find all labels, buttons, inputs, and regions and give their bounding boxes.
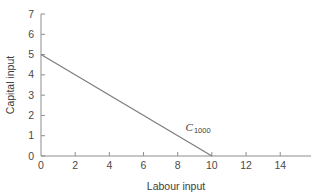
x-tick-label: 8 — [175, 159, 181, 171]
curve-label-subscript: 1000 — [194, 126, 211, 135]
x-tick-label: 2 — [72, 159, 78, 171]
x-tick-label: 14 — [274, 159, 286, 171]
x-axis-title: Labour input — [147, 180, 205, 192]
y-tick-label: 7 — [28, 8, 34, 20]
y-axis-ticks — [41, 14, 45, 156]
series-line — [41, 55, 212, 156]
x-tick-label: 10 — [206, 159, 218, 171]
curve-label-main: C — [185, 121, 193, 133]
y-tick-label: 4 — [28, 68, 34, 80]
x-axis-tick-labels: 02468101214 — [38, 159, 286, 171]
y-axis-title: Capital input — [4, 56, 16, 114]
chart-plot-area: 01234567 02468101214 C 1000 Labour input… — [0, 0, 314, 196]
x-tick-label: 0 — [38, 159, 44, 171]
x-tick-label: 12 — [240, 159, 252, 171]
x-tick-label: 6 — [141, 159, 147, 171]
isocost-chart: 01234567 02468101214 C 1000 Labour input… — [0, 0, 314, 196]
x-tick-label: 4 — [106, 159, 112, 171]
data-series-group — [41, 55, 212, 156]
curve-label-c1000: C 1000 — [185, 121, 210, 135]
x-axis-ticks — [75, 152, 280, 156]
y-tick-label: 2 — [28, 109, 34, 121]
y-tick-label: 1 — [28, 129, 34, 141]
y-tick-label: 3 — [28, 89, 34, 101]
y-axis-tick-labels: 01234567 — [28, 8, 34, 162]
y-tick-label: 0 — [28, 150, 34, 162]
y-tick-label: 5 — [28, 48, 34, 60]
y-tick-label: 6 — [28, 28, 34, 40]
